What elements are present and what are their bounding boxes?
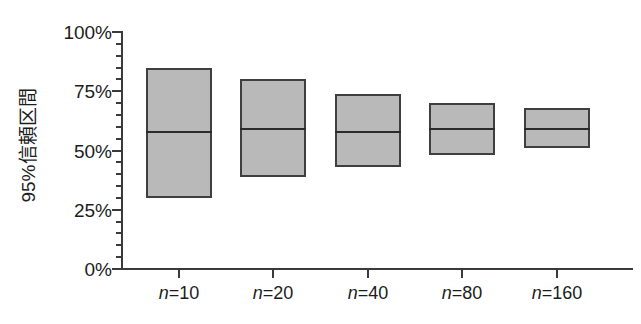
y-axis-minor-tick — [116, 114, 122, 116]
x-axis-tick — [461, 269, 463, 278]
x-axis-tick-label-variable: n — [442, 283, 452, 303]
y-axis-minor-tick — [116, 256, 122, 258]
point-estimate-line — [524, 128, 590, 130]
y-axis-minor-tick — [116, 55, 122, 57]
point-estimate-line — [146, 131, 212, 133]
y-axis-minor-tick — [116, 67, 122, 69]
x-axis-tick-label: n=80 — [442, 283, 483, 304]
y-axis-major-tick — [112, 150, 122, 152]
y-axis-minor-tick — [116, 161, 122, 163]
y-axis-minor-tick — [116, 185, 122, 187]
x-axis-tick-label-variable: n — [532, 283, 542, 303]
y-axis-minor-tick — [116, 244, 122, 246]
y-axis-major-tick — [112, 90, 122, 92]
x-axis-tick-label-value: =160 — [542, 283, 583, 303]
y-axis-minor-tick — [116, 232, 122, 234]
confidence-interval-chart: 95%信頼区間 0%25%50%75%100% n=10n=20n=40n=80… — [0, 0, 641, 324]
x-axis-tick-label-value: =80 — [452, 283, 483, 303]
x-axis-tick — [556, 269, 558, 278]
x-axis-tick-label: n=20 — [253, 283, 294, 304]
x-axis-tick-label-value: =40 — [358, 283, 389, 303]
y-axis-major-tick — [112, 209, 122, 211]
y-axis-major-tick — [112, 268, 122, 270]
point-estimate-line — [240, 128, 306, 130]
x-axis-tick-label-variable: n — [253, 283, 263, 303]
x-axis-tick — [367, 269, 369, 278]
y-axis-major-tick — [112, 31, 122, 33]
x-axis-tick-label: n=10 — [159, 283, 200, 304]
y-axis-minor-tick — [116, 197, 122, 199]
y-axis-minor-tick — [116, 126, 122, 128]
point-estimate-line — [429, 128, 495, 130]
x-axis-tick — [272, 269, 274, 278]
y-axis-minor-tick — [116, 138, 122, 140]
x-axis-tick-label: n=160 — [532, 283, 583, 304]
x-axis-tick-label-variable: n — [348, 283, 358, 303]
x-axis-tick — [178, 269, 180, 278]
x-axis-tick-label-value: =20 — [263, 283, 294, 303]
point-estimate-line — [335, 131, 401, 133]
x-axis-tick-label-variable: n — [159, 283, 169, 303]
plot-area: n=10n=20n=40n=80n=160 — [0, 0, 641, 324]
y-axis-minor-tick — [116, 221, 122, 223]
x-axis-tick-label-value: =10 — [169, 283, 200, 303]
x-axis-tick-label: n=40 — [348, 283, 389, 304]
y-axis-minor-tick — [116, 173, 122, 175]
y-axis-minor-tick — [116, 102, 122, 104]
y-axis-minor-tick — [116, 78, 122, 80]
y-axis-minor-tick — [116, 43, 122, 45]
confidence-interval-box — [146, 68, 212, 198]
